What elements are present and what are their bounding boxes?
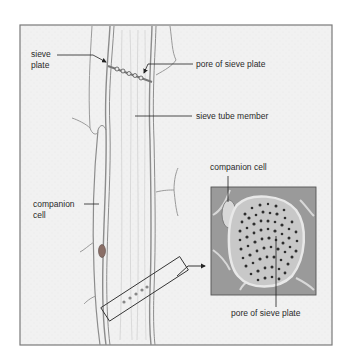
magnified-inset	[211, 187, 316, 295]
label-sieve-plate-line1: sieve	[31, 49, 51, 59]
label-companion-cell-inset: companion cell	[210, 162, 267, 172]
label-pore-of-sieve-plate-inset: pore of sieve plate	[231, 308, 300, 318]
label-pore-of-sieve-plate-top: pore of sieve plate	[196, 59, 265, 69]
diagram-frame	[20, 25, 332, 345]
nucleus	[99, 245, 106, 258]
label-sieve-plate-line2: plate	[31, 60, 49, 70]
label-sieve-tube-member: sieve tube member	[196, 111, 268, 121]
label-companion-cell-left-line2: cell	[33, 210, 46, 220]
label-companion-cell-left-line1: companion	[33, 199, 75, 209]
